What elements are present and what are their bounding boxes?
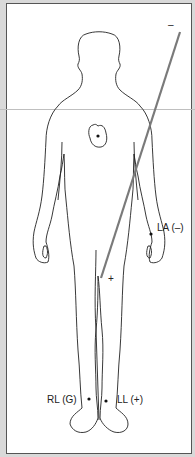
- ll-label: LL (+): [117, 394, 143, 405]
- plus-label: +: [108, 273, 114, 284]
- electrode-la-dot: [149, 232, 152, 235]
- electrode-rl-dot: [87, 397, 90, 400]
- negative-label: –: [168, 19, 174, 30]
- rl-label: RL (G): [47, 394, 77, 405]
- lead-axis-line: [101, 32, 180, 278]
- la-label: LA (–): [157, 222, 184, 233]
- electrode-ll-dot: [104, 399, 107, 402]
- body-outline: [33, 32, 165, 433]
- heart-center-dot: [96, 134, 99, 137]
- body-diagram: – LA (–) + RL (G) LL (+): [0, 0, 195, 457]
